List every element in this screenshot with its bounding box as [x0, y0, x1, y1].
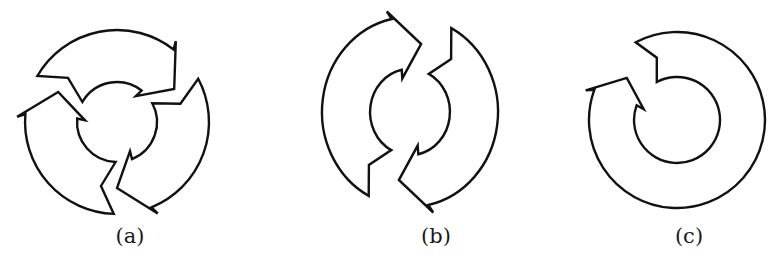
figure-panel-c: (c) — [0, 0, 780, 270]
panel-label-c: (c) — [649, 224, 729, 248]
clockwise-arrow-ring — [586, 32, 765, 208]
